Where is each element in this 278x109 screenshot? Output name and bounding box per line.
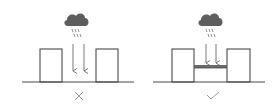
- panel-incorrect: [22, 14, 134, 100]
- check-icon: [207, 92, 219, 99]
- bridge-cover: [194, 65, 227, 68]
- rain-drainage-diagram: [0, 0, 278, 109]
- rain-arrows-icon: [206, 44, 216, 63]
- building-left: [172, 49, 194, 82]
- building-right: [227, 49, 250, 82]
- building-right: [96, 49, 118, 82]
- rain-drops-icon: [72, 29, 81, 37]
- rain-arrows-icon: [73, 44, 84, 71]
- rain-cloud-icon: [64, 14, 88, 26]
- rain-cloud-icon: [198, 14, 222, 26]
- panel-correct: [153, 14, 265, 99]
- building-left: [40, 49, 62, 82]
- cross-icon: [75, 92, 83, 100]
- rain-drops-icon: [206, 29, 215, 37]
- diagram-svg: [0, 0, 278, 109]
